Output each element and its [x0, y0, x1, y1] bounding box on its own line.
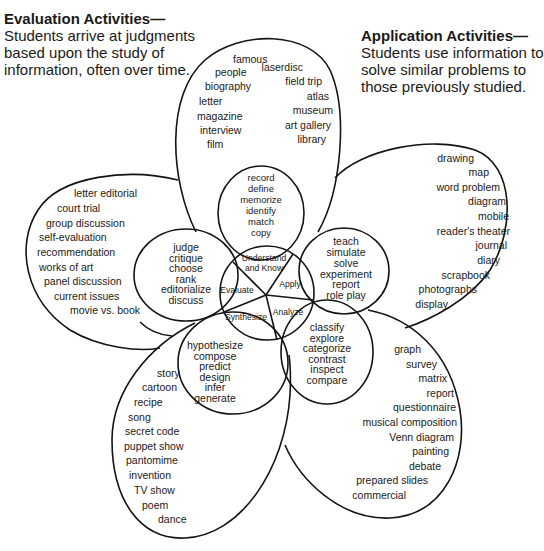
outer-word: dance [158, 513, 187, 525]
outer-word: secret code [125, 425, 179, 437]
inner-word: identify [246, 205, 276, 216]
outer-word: drawing [437, 152, 474, 164]
outer-word: painting [412, 445, 449, 457]
inner-word: generate [194, 392, 236, 404]
outer-words-apply: drawing map word problem diagram mobile … [415, 152, 510, 310]
inner-word: define [248, 183, 274, 194]
outer-word: scrapbook [442, 269, 491, 281]
inner-word: record [248, 172, 275, 183]
outer-word: invention [129, 469, 171, 481]
outer-word: art gallery [285, 119, 332, 131]
outer-word: poem [142, 499, 169, 511]
outer-word: recipe [134, 396, 163, 408]
outer-word: film [207, 138, 224, 150]
inner-word: compare [307, 374, 348, 386]
outer-word: map [469, 166, 490, 178]
outer-word: report [427, 387, 455, 399]
inner-words-synthesize: hypothesize compose predict design infer… [187, 339, 243, 404]
outer-word: diagram [468, 195, 506, 207]
outer-word: museum [293, 104, 334, 116]
outer-word: graph [394, 343, 421, 355]
center-label-synthesize: Synthesize [225, 312, 267, 322]
outer-word: works of art [38, 261, 93, 273]
outer-word: magazine [197, 110, 243, 122]
outer-word: letter [199, 95, 223, 107]
outer-word: letter editorial [74, 187, 137, 199]
outer-word: diary [477, 254, 501, 266]
outer-word: journal [474, 239, 507, 251]
outer-word: musical composition [362, 416, 457, 428]
inner-words-apply: teach simulate solve experiment report r… [320, 235, 372, 301]
outer-word: movie vs. book [70, 304, 141, 316]
inner-word: memorize [240, 194, 282, 205]
outer-word: pantomime [126, 454, 178, 466]
outer-words-synthesize: story cartoon recipe song secret code pu… [124, 367, 187, 525]
center-label-analyze: Analyze [273, 307, 304, 317]
inner-word: discuss [168, 294, 203, 306]
outer-word: panel discussion [44, 275, 122, 287]
inner-word: match [248, 216, 274, 227]
outer-word: court trial [57, 202, 100, 214]
outer-word: display [415, 298, 448, 310]
outer-words-evaluate: letter editorial court trial group discu… [37, 187, 141, 316]
outer-word: interview [200, 124, 242, 136]
outer-words-understand-left: famous people biography letter magazine … [197, 53, 267, 150]
inner-word: role play [326, 289, 366, 301]
outer-word: library [297, 133, 326, 145]
inner-word: copy [251, 227, 271, 238]
center-label-evaluate: Evaluate [220, 285, 254, 295]
outer-word: reader's theater [437, 225, 511, 237]
outer-word: debate [409, 460, 441, 472]
outer-word: commercial [352, 489, 406, 501]
outer-word: Venn diagram [389, 431, 454, 443]
outer-word: prepared slides [356, 474, 428, 486]
inner-words-analyze: classify explore categorize contrast ins… [303, 321, 352, 386]
outer-word: mobile [478, 210, 509, 222]
inner-words-understand: record define memorize identify match co… [240, 172, 282, 238]
outer-word: recommendation [37, 246, 115, 258]
outer-word: matrix [418, 372, 447, 384]
outer-word: self-evaluation [39, 231, 107, 243]
outer-word: atlas [307, 90, 329, 102]
outer-words-analyze: graph survey matrix report questionnaire… [352, 343, 457, 501]
outer-word: group discussion [46, 217, 125, 229]
outer-word: puppet show [124, 440, 184, 452]
outer-words-understand-right: laserdisc field trip atlas museum art ga… [262, 61, 334, 145]
outer-word: questionnaire [393, 401, 456, 413]
outer-word: song [128, 411, 151, 423]
outer-word: word problem [435, 181, 500, 193]
outer-word: photographs [419, 283, 477, 295]
outer-word: story [157, 367, 181, 379]
inner-words-evaluate: judge critique choose rank editorialize … [161, 241, 211, 306]
outer-word: field trip [285, 75, 322, 87]
outer-word: current issues [54, 290, 119, 302]
outer-word: people [215, 66, 247, 78]
outer-word: biography [205, 80, 252, 92]
outer-word: survey [406, 358, 438, 370]
center-label-apply: Apply [279, 279, 301, 289]
outer-word: cartoon [142, 381, 177, 393]
outer-word: TV show [134, 484, 175, 496]
blooms-flower-diagram: Understand and Know Apply Analyze Synthe… [0, 0, 544, 551]
center-label-understand: and Know [245, 263, 284, 273]
outer-word: laserdisc [262, 61, 303, 73]
center-label-understand: Understand [242, 253, 287, 263]
